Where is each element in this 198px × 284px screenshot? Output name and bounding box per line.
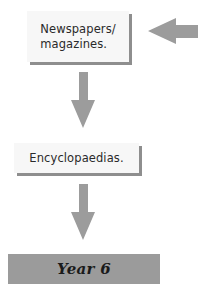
node-year-6: Year 6	[8, 254, 160, 284]
node-label: Year 6	[57, 260, 111, 284]
